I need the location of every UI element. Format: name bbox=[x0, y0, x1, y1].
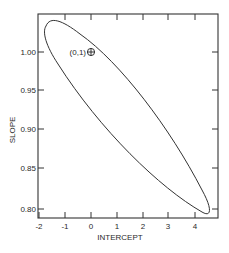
x-axis-title: INTERCEPT bbox=[97, 233, 142, 242]
y-tick-label: 0.80 bbox=[20, 205, 36, 214]
reference-point-marker bbox=[87, 48, 94, 55]
x-axis-ticks-top bbox=[65, 14, 195, 20]
reference-point-label: (0,1) bbox=[70, 48, 87, 57]
plot-frame bbox=[38, 14, 218, 218]
x-tick-label: -2 bbox=[35, 222, 43, 231]
y-axis-ticks-right bbox=[212, 52, 218, 209]
y-axis-title: SLOPE bbox=[8, 117, 17, 144]
x-tick-label: 0 bbox=[89, 222, 94, 231]
y-tick-labels: 0.80 0.85 0.90 0.95 1.00 bbox=[20, 48, 36, 214]
chart: -2 -1 0 1 2 3 4 0.80 0.85 0.90 0.95 1.00… bbox=[0, 0, 229, 253]
y-tick-label: 0.85 bbox=[20, 164, 36, 173]
x-tick-label: -1 bbox=[61, 222, 69, 231]
y-tick-label: 0.95 bbox=[20, 86, 36, 95]
y-tick-label: 1.00 bbox=[20, 48, 36, 57]
y-axis-ticks-left bbox=[38, 52, 44, 209]
x-axis-ticks-bottom bbox=[39, 212, 195, 218]
y-tick-label: 0.90 bbox=[20, 125, 36, 134]
x-tick-label: 2 bbox=[141, 222, 146, 231]
x-tick-labels: -2 -1 0 1 2 3 4 bbox=[35, 222, 197, 231]
x-tick-label: 4 bbox=[193, 222, 198, 231]
x-tick-label: 1 bbox=[115, 222, 120, 231]
x-tick-label: 3 bbox=[166, 222, 171, 231]
